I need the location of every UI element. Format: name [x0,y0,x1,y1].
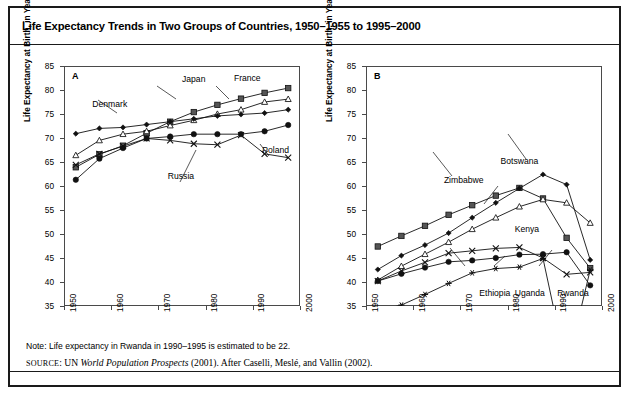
data-point-marker [564,182,569,187]
x-tick-mark [602,306,603,310]
data-point-marker [493,255,498,260]
x-tick-mark [555,306,556,310]
data-point-marker [399,233,404,238]
figure-container: Life Expectancy Trends in Two Groups of … [0,0,629,397]
annotation-kenya: Kenya [515,224,539,234]
y-tick-label: 55 [34,205,54,215]
data-point-marker [564,250,569,255]
series-line [76,135,288,165]
y-tick-label: 65 [336,157,356,167]
x-tick-mark [158,306,159,310]
panel-b-series-layer [366,66,602,306]
y-tick-label: 80 [336,85,356,95]
annotation-zimbabwe: Zimbabwe [444,175,484,185]
data-point-marker [469,226,475,232]
data-point-marker [422,223,427,228]
data-point-marker [191,131,196,136]
data-point-marker [73,131,78,136]
y-tick-label: 50 [34,229,54,239]
annotation-france: France [234,73,261,83]
data-point-marker [238,112,243,117]
source-text-a: : UN [59,357,80,368]
x-tick-mark [206,306,207,310]
data-point-marker [517,252,522,257]
y-tick-label: 65 [34,157,54,167]
data-point-marker [73,152,79,158]
data-point-marker [262,90,267,95]
y-tick-label: 85 [34,61,54,71]
data-point-marker [493,266,499,271]
data-point-marker [470,258,475,263]
data-point-marker [286,85,291,90]
figure-source: SOURCE: UN World Population Prospects (2… [26,357,372,368]
data-point-marker [422,259,428,265]
data-point-marker [262,129,267,134]
data-point-marker [398,263,404,269]
y-tick-label: 40 [336,277,356,287]
x-tick-mark [64,306,65,310]
series-line [378,188,590,268]
x-tick-mark [300,306,301,310]
y-tick-label: 70 [34,133,54,143]
y-tick-label: 70 [336,133,356,143]
series-uganda [375,244,593,284]
data-point-marker [191,109,196,114]
y-tick-label: 35 [336,301,356,311]
series-botswana [375,172,593,272]
data-point-marker [238,96,243,101]
data-point-marker [422,292,428,297]
x-tick-mark [253,306,254,310]
x-tick-mark [366,306,367,310]
data-point-marker [470,203,475,208]
data-point-marker [564,235,569,240]
data-point-marker [540,172,545,177]
data-point-marker [285,96,291,102]
source-title: World Population Prospects [80,357,188,368]
x-tick-mark [413,306,414,310]
y-tick-label: 75 [34,109,54,119]
data-point-marker [470,215,475,220]
data-point-marker [446,259,451,264]
data-point-marker [215,131,220,136]
series-line [76,110,288,134]
data-point-marker [446,230,451,235]
bottom-divider [9,371,620,372]
annotation-denmark: Denmark [92,99,127,109]
data-point-marker [493,200,498,205]
data-point-marker [73,177,78,182]
series-line [378,258,590,306]
data-point-marker [120,125,125,130]
annotation-poland: Poland [262,145,289,155]
data-point-marker [375,278,380,283]
annotation-russia: Russia [168,171,194,181]
title-divider [9,44,620,45]
data-point-marker [97,156,102,161]
series-rwanda [378,256,594,306]
panel-b-y-axis-label: Life Expectancy at Birth, in Years [324,0,334,122]
y-tick-label: 60 [336,181,356,191]
source-label: SOURCE [26,359,59,368]
annotation-japan: Japan [182,74,205,84]
x-tick-mark [460,306,461,310]
data-point-marker [375,244,380,249]
annotation-rwanda: Rwanda [557,288,589,298]
figure-title: Life Expectancy Trends in Two Groups of … [22,20,421,32]
data-point-marker [422,251,428,257]
data-point-marker [97,126,102,131]
y-tick-label: 45 [34,253,54,263]
annotation-uganda: Uganda [515,288,545,298]
series-zimbabwe [375,185,593,271]
data-point-marker [446,239,452,245]
source-text-b: (2001). After Caselli, Meslé, and Vallin… [189,357,373,368]
data-point-marker [493,193,498,198]
data-point-marker [399,271,404,276]
series-line [378,174,590,269]
data-point-marker [286,122,291,127]
data-point-marker [446,281,452,286]
data-point-marker [215,102,220,107]
y-tick-label: 55 [336,205,356,215]
data-point-marker [262,110,267,115]
y-tick-label: 50 [336,229,356,239]
y-tick-label: 80 [34,85,54,95]
data-point-marker [144,122,149,127]
